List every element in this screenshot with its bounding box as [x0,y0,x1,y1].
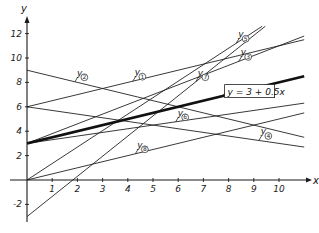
x-tick-label: 8 [226,184,232,194]
x-tick-label: 2 [75,184,81,194]
x-tick-label: 1 [49,184,55,194]
series-index-number: 3 [246,53,250,60]
series-index-number: 6 [183,113,187,120]
x-axis-label: x [312,175,319,186]
series-index-number: 1 [140,73,144,80]
y-tick-label: 4 [16,126,22,136]
series-index-number: 5 [244,35,248,42]
equation-annotation: y = 3 + 0.5x [223,85,286,98]
y-tick-label: -2 [13,199,22,209]
series-lines [27,26,304,216]
y-tick-label: 12 [11,29,23,39]
y-tick-label: 10 [11,53,23,63]
y-axis-label: y [20,3,28,14]
series-label-y8: y8 [135,140,148,154]
series-label-y2: y2 [75,68,88,82]
series-label-y5: y5 [236,29,249,43]
series-index-number: 2 [82,73,86,80]
x-axis-arrow-icon [306,178,312,183]
series-index-number: 4 [266,132,270,139]
x-tick-label: 9 [251,184,257,194]
series-label-y6: y6 [176,108,189,122]
x-tick-label: 10 [273,184,285,194]
x-tick-label: 4 [125,184,131,194]
y-tick-label: 2 [16,151,22,161]
annotations: y = 3 + 0.5x [223,85,286,98]
x-tick-label: 7 [201,184,207,194]
y-tick-label: 8 [16,77,22,87]
x-tick-label: 6 [175,184,181,194]
y-tick-label: 6 [16,102,22,112]
series-line-y5 [27,26,262,180]
y-axis-arrow-icon [25,16,30,23]
series-index-number: 8 [143,145,147,152]
annotation-text: y = 3 + 0.5x [227,87,286,97]
x-tick-label: 3 [100,184,106,194]
axes: xy12345678910-224681012 [10,3,319,222]
series-index-number: 7 [203,73,207,80]
series-label-y1: y1 [133,67,146,81]
x-tick-label: 5 [150,184,156,194]
linear-functions-chart: xy12345678910-224681012 y1y2y3y4y5y6y7y8… [0,0,319,233]
